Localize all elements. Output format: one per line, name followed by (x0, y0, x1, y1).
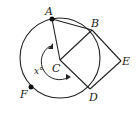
segment-de (90, 61, 121, 89)
label-d: D (88, 91, 98, 104)
arc-arrow-head-bottom (66, 74, 71, 80)
arc-arrow-head-top (48, 43, 53, 49)
label-e: E (121, 55, 130, 68)
segment-ab (52, 19, 92, 30)
label-f: F (19, 88, 28, 101)
segment-cb (60, 30, 92, 60)
segment-be (92, 30, 121, 61)
label-c: C (52, 62, 61, 75)
segment-ac (52, 19, 60, 60)
point-f-dot (29, 85, 34, 90)
label-b: B (90, 17, 99, 30)
geometry-diagram: A B C D E F x° (0, 0, 139, 116)
angle-label: x° (34, 66, 44, 76)
label-a: A (44, 5, 53, 18)
segment-cd (60, 60, 90, 89)
